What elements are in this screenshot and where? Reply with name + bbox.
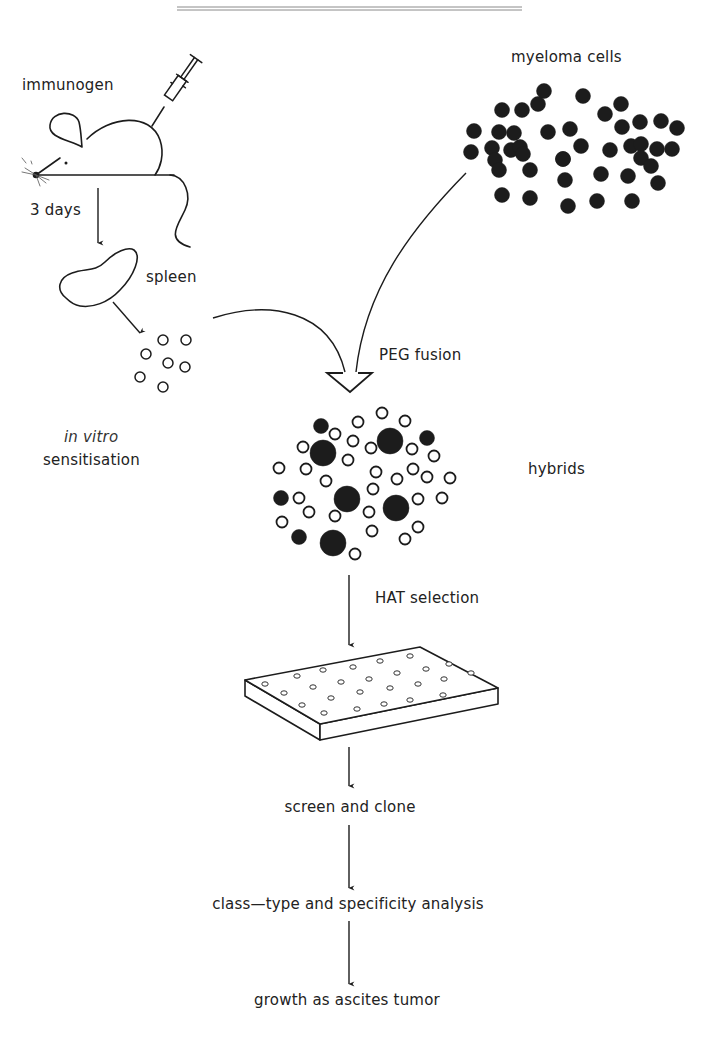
hybrid-cell-small — [292, 530, 307, 545]
plate-well — [387, 686, 393, 690]
label-hat-selection: HAT selection — [375, 589, 479, 607]
spleen-cell — [135, 372, 145, 382]
myeloma-cell — [651, 176, 666, 191]
spleen-cell — [141, 349, 151, 359]
myeloma-cell — [507, 126, 522, 141]
mouse-icon — [22, 113, 190, 247]
top-rule — [177, 7, 522, 10]
hybrid-cell-open — [277, 517, 288, 528]
hybrid-cell-open — [437, 493, 448, 504]
myeloma-cell — [576, 89, 591, 104]
hybrid-cell-open — [377, 408, 388, 419]
plate-well — [394, 671, 400, 675]
spleen-icon — [60, 249, 137, 307]
hybrid-cell-open — [301, 464, 312, 475]
plate-well — [328, 696, 334, 700]
plate-well — [468, 671, 474, 675]
myeloma-cell — [650, 142, 665, 157]
myeloma-cell — [492, 163, 507, 178]
hybrid-cell-open — [348, 436, 359, 447]
hybrid-cell-open — [392, 474, 403, 485]
plate-well — [354, 707, 360, 711]
hybrid-cell-open — [371, 467, 382, 478]
plate-well — [407, 698, 413, 702]
plate-well — [320, 668, 326, 672]
myeloma-cell — [561, 199, 576, 214]
plate-well — [381, 702, 387, 706]
label-peg-fusion: PEG fusion — [379, 346, 461, 364]
hybrid-cell-open — [330, 429, 341, 440]
myeloma-cells — [464, 84, 685, 214]
label-myeloma-cells: myeloma cells — [511, 48, 622, 66]
hybrid-cell-open — [429, 451, 440, 462]
plate-well — [415, 682, 421, 686]
myeloma-cell — [665, 142, 680, 157]
myeloma-cell — [495, 188, 510, 203]
myeloma-cell — [556, 152, 571, 167]
label-ascites-tumor: growth as ascites tumor — [254, 991, 440, 1009]
myeloma-cell — [614, 97, 629, 112]
plate-well — [377, 659, 383, 663]
myeloma-cell — [621, 169, 636, 184]
myeloma-cell — [594, 167, 609, 182]
hybrid-cell-open — [367, 526, 378, 537]
hybrid-cell-open — [350, 549, 361, 560]
hybrid-cell-open — [413, 494, 424, 505]
plate-well — [366, 677, 372, 681]
myeloma-cell — [492, 125, 507, 140]
hybrid-cell-open — [400, 534, 411, 545]
hybrid-cell-open — [304, 507, 315, 518]
hybrid-cell-large — [310, 440, 336, 466]
hybrid-cell-open — [298, 442, 309, 453]
hybrid-cell-small — [274, 491, 289, 506]
plate-well — [310, 685, 316, 689]
myeloma-fusion-line — [356, 173, 466, 372]
spleen-cell — [181, 335, 191, 345]
myeloma-cell — [537, 84, 552, 99]
spleen-cell — [158, 335, 168, 345]
label-class-type-analysis: class—type and specificity analysis — [212, 895, 484, 913]
hybrid-cell-large — [334, 486, 360, 512]
plate-well — [446, 662, 452, 666]
plate-well — [357, 690, 363, 694]
spleen-cell — [180, 362, 190, 372]
myeloma-cell — [590, 194, 605, 209]
hybrid-cell-small — [420, 431, 435, 446]
myeloma-cell — [654, 114, 669, 129]
plate-well — [262, 682, 268, 686]
hybrid-cell-open — [364, 507, 375, 518]
plate-well — [407, 654, 413, 658]
hybrid-cell-open — [422, 472, 433, 483]
spleen-cells — [135, 335, 191, 392]
plate-well — [440, 693, 446, 697]
label-screen-and-clone: screen and clone — [284, 798, 415, 816]
hybrid-cell-open — [366, 443, 377, 454]
myeloma-cell — [516, 147, 531, 162]
label-immunogen: immunogen — [22, 76, 114, 94]
plate-well — [321, 711, 327, 715]
myeloma-cell — [464, 145, 479, 160]
myeloma-cell — [467, 124, 482, 139]
hybrid-cells — [274, 408, 456, 560]
myeloma-cell — [644, 159, 659, 174]
myeloma-cell — [531, 97, 546, 112]
myeloma-cell — [603, 143, 618, 158]
spleen-cell — [163, 358, 173, 368]
myeloma-cell — [515, 103, 530, 118]
arrow-spleen-to-cells — [113, 302, 140, 333]
syringe-icon — [152, 55, 203, 126]
label-in-vitro: in vitro — [64, 428, 118, 446]
hybrid-cell-open — [368, 484, 379, 495]
hybrid-cell-open — [445, 473, 456, 484]
hybrid-cell-open — [294, 493, 305, 504]
hybrid-cell-open — [274, 463, 285, 474]
myeloma-cell — [574, 139, 589, 154]
plate-well — [294, 674, 300, 678]
hybridoma-diagram — [0, 0, 718, 1037]
plate-well — [350, 665, 356, 669]
myeloma-cell — [625, 194, 640, 209]
hybrid-cell-open — [321, 476, 332, 487]
plate-well — [338, 680, 344, 684]
myeloma-cell — [615, 120, 630, 135]
plate-well — [281, 691, 287, 695]
